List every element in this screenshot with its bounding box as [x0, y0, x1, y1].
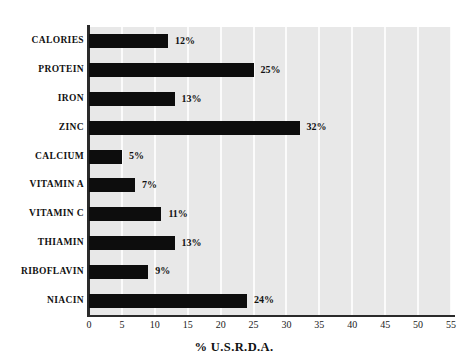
category-label: VITAMIN C: [29, 208, 84, 218]
category-label: THIAMIN: [38, 237, 84, 247]
category-label: CALORIES: [32, 35, 84, 45]
data-label: 24%: [254, 294, 274, 305]
x-tick-label: 15: [173, 319, 203, 330]
bar: [89, 294, 247, 308]
data-label: 13%: [182, 93, 202, 104]
x-axis-title: % U.S.R.D.A.: [0, 340, 468, 355]
x-tick-label: 40: [337, 319, 367, 330]
gridline: [384, 27, 386, 315]
data-label: 9%: [155, 265, 170, 276]
x-tick-label: 0: [74, 319, 104, 330]
bar: [89, 34, 168, 48]
bar: [89, 236, 175, 250]
x-tick-label: 50: [403, 319, 433, 330]
data-label: 11%: [168, 208, 187, 219]
bar: [89, 121, 300, 135]
x-tick-label: 10: [140, 319, 170, 330]
x-tick-label: 30: [271, 319, 301, 330]
gridline: [417, 27, 419, 315]
data-label: 32%: [307, 121, 327, 132]
gridline: [318, 27, 320, 315]
bar: [89, 207, 161, 221]
bar: [89, 178, 135, 192]
category-label: RIBOFLAVIN: [21, 266, 84, 276]
x-tick-label: 20: [206, 319, 236, 330]
data-label: 25%: [261, 64, 281, 75]
x-tick-label: 35: [304, 319, 334, 330]
x-tick-label: 25: [239, 319, 269, 330]
gridline: [285, 27, 287, 315]
category-label: PROTEIN: [38, 64, 84, 74]
data-label: 5%: [129, 150, 144, 161]
category-label: ZINC: [59, 122, 84, 132]
category-label: IRON: [58, 93, 84, 103]
data-label: 7%: [142, 179, 157, 190]
x-tick-label: 45: [370, 319, 400, 330]
bar: [89, 265, 148, 279]
bar: [89, 92, 175, 106]
x-axis-line: [87, 315, 455, 317]
x-tick-label: 55: [436, 319, 466, 330]
data-label: 12%: [175, 35, 195, 46]
category-label: CALCIUM: [35, 151, 84, 161]
gridline: [450, 27, 451, 315]
bar: [89, 150, 122, 164]
gridline: [351, 27, 353, 315]
category-label: NIACIN: [47, 295, 84, 305]
data-label: 13%: [182, 237, 202, 248]
x-tick-label: 5: [107, 319, 137, 330]
bar: [89, 63, 254, 77]
category-label: VITAMIN A: [30, 179, 84, 189]
bar-chart: CALORIESPROTEINIRONZINCCALCIUMVITAMIN AV…: [0, 0, 468, 363]
